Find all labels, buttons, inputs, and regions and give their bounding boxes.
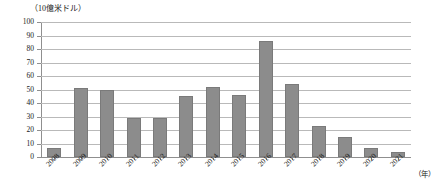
y-axis-tick-label: 80	[0, 45, 34, 53]
bar-2016	[259, 41, 273, 157]
y-axis-tick-label: 10	[0, 140, 34, 148]
y-axis-tick	[37, 49, 41, 50]
bar-2015	[232, 95, 246, 157]
y-axis-tick	[37, 130, 41, 131]
y-axis-tick-label: 30	[0, 113, 34, 121]
y-axis-tick	[37, 103, 41, 104]
y-axis-tick-label: 90	[0, 32, 34, 40]
y-axis-unit-label: （10億米ドル）	[30, 3, 86, 14]
y-axis-tick	[37, 63, 41, 64]
y-axis-tick-label: 40	[0, 99, 34, 107]
x-axis-tick-labels: 2008200920102011201220132014201520162017…	[41, 157, 411, 189]
y-axis-tick	[37, 36, 41, 37]
bar-2013	[179, 96, 193, 157]
bar-chart: （10億米ドル） 0102030405060708090100 20082009…	[0, 0, 439, 189]
y-axis-tick	[37, 22, 41, 23]
y-axis-tick	[37, 157, 41, 158]
bars	[41, 22, 411, 157]
y-axis-tick-label: 60	[0, 72, 34, 80]
y-axis-tick	[37, 90, 41, 91]
y-axis-tick-labels: 0102030405060708090100	[0, 0, 36, 189]
y-axis-tick-label: 20	[0, 126, 34, 134]
bar-2017	[285, 84, 299, 157]
bar-2014	[206, 87, 220, 157]
plot-area	[41, 22, 411, 157]
x-axis-caption: （年）	[414, 170, 435, 179]
y-axis-tick	[37, 117, 41, 118]
y-axis-tick-label: 0	[0, 153, 34, 161]
y-axis-tick-label: 50	[0, 86, 34, 94]
y-axis-tick	[37, 76, 41, 77]
bar-2009	[74, 88, 88, 157]
bar-2010	[100, 90, 114, 158]
y-axis-tick-label: 70	[0, 59, 34, 67]
y-axis-tick	[37, 144, 41, 145]
y-axis-tick-label: 100	[0, 18, 34, 26]
